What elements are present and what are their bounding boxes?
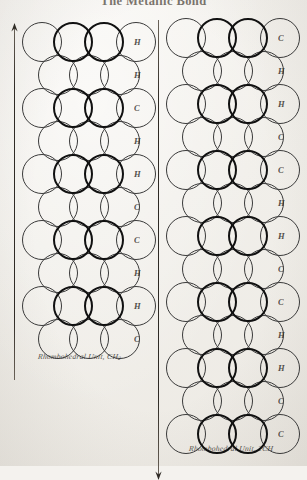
axis-shaft — [158, 20, 159, 479]
page-title: The Metallic Bond — [0, 0, 307, 9]
axis-shaft — [14, 24, 15, 380]
right-figure: CHHCCHHCCHHCC — [152, 18, 304, 436]
arrow-down-icon — [154, 471, 163, 480]
left-figure: HHCHHCCHHC — [8, 22, 158, 352]
vertical-axis-arrow-down — [154, 20, 163, 479]
arrow-up-icon — [10, 23, 19, 32]
vertical-axis-arrow-up — [10, 24, 19, 380]
